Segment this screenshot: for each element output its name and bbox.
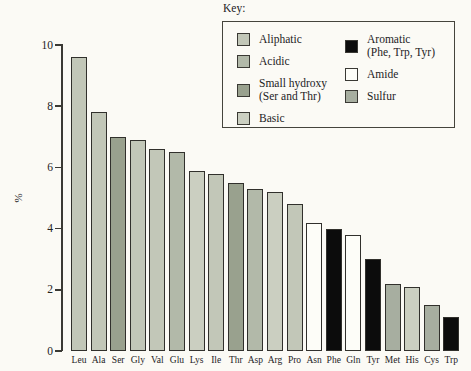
bar-ile (208, 174, 224, 352)
x-tick-label-leu: Leu (71, 355, 87, 366)
legend-label-line2: (Ser and Thr) (259, 90, 327, 103)
legend-label-line1: Basic (259, 112, 285, 125)
x-tick-label-phe: Phe (326, 355, 342, 366)
legend-label-line1: Aliphatic (259, 33, 302, 46)
y-tick-mark (55, 228, 62, 230)
x-tick-label-val: Val (149, 355, 165, 366)
x-tick-label-lys: Lys (189, 355, 205, 366)
x-tick-label-tyr: Tyr (365, 355, 381, 366)
legend-entry-amide: Amide (345, 68, 435, 81)
legend-title: Key: (223, 2, 245, 14)
bar-lys (189, 171, 205, 352)
x-tick-label-gln: Gln (345, 355, 361, 366)
legend-label-line1: Amide (367, 68, 398, 81)
legend-label-amide: Amide (367, 68, 398, 81)
legend-entry-small_hydroxy: Small hydroxy(Ser and Thr) (237, 77, 327, 103)
bar-ser (110, 137, 126, 351)
x-tick-label-asp: Asp (247, 355, 263, 366)
bar-his (404, 287, 420, 351)
bar-gln (345, 235, 361, 351)
x-tick-label-thr: Thr (228, 355, 244, 366)
x-tick-label-pro: Pro (287, 355, 303, 366)
bar-ala (91, 112, 107, 351)
legend-label-line1: Aromatic (367, 33, 435, 46)
bar-asn (306, 223, 322, 352)
bar-thr (228, 183, 244, 351)
x-axis-labels: LeuAlaSerGlyValGluLysIleThrAspArgProAsnP… (63, 355, 467, 366)
y-tick-mark (55, 44, 62, 46)
legend-swatch-sulfur (345, 90, 358, 103)
y-tick-label: 0 (26, 345, 53, 358)
x-tick-label-ala: Ala (91, 355, 107, 366)
bar-phe (326, 229, 342, 351)
bar-pro (287, 204, 303, 351)
y-tick-mark (55, 167, 62, 169)
bar-asp (247, 189, 263, 351)
legend-column-left: AliphaticAcidicSmall hydroxy(Ser and Thr… (237, 33, 327, 125)
y-axis-title: % (12, 193, 24, 202)
legend-swatch-aromatic (345, 40, 358, 53)
legend-entry-sulfur: Sulfur (345, 90, 435, 103)
legend-entry-basic: Basic (237, 112, 327, 125)
x-tick-label-met: Met (385, 355, 401, 366)
x-tick-label-ser: Ser (110, 355, 126, 366)
x-tick-label-arg: Arg (267, 355, 283, 366)
bar-arg (267, 192, 283, 351)
legend-swatch-amide (345, 68, 358, 81)
y-tick-label: 4 (26, 222, 53, 235)
legend-swatch-acidic (237, 55, 250, 68)
legend-label-aromatic: Aromatic(Phe, Trp, Tyr) (367, 33, 435, 59)
legend-label-sulfur: Sulfur (367, 90, 396, 103)
x-tick-label-glu: Glu (169, 355, 185, 366)
legend-label-line2: (Phe, Trp, Tyr) (367, 46, 435, 59)
legend-box: AliphaticAcidicSmall hydroxy(Ser and Thr… (222, 21, 455, 128)
x-tick-label-asn: Asn (306, 355, 322, 366)
y-tick-mark (55, 105, 62, 107)
legend-entry-acidic: Acidic (237, 55, 327, 68)
x-tick-label-ile: Ile (208, 355, 224, 366)
y-tick-mark (55, 350, 62, 352)
bar-glu (169, 152, 185, 351)
legend-entry-aliphatic: Aliphatic (237, 33, 327, 46)
legend-swatch-small_hydroxy (237, 84, 250, 97)
y-tick-label: 2 (26, 283, 53, 296)
legend-label-line1: Small hydroxy (259, 77, 327, 90)
bar-met (385, 284, 401, 351)
y-tick-mark (55, 289, 62, 291)
legend-label-acidic: Acidic (259, 55, 290, 68)
bar-cys (424, 305, 440, 351)
x-tick-label-cys: Cys (424, 355, 440, 366)
legend-label-small_hydroxy: Small hydroxy(Ser and Thr) (259, 77, 327, 103)
x-tick-label-gly: Gly (130, 355, 146, 366)
bar-leu (71, 57, 87, 351)
bar-trp (443, 317, 459, 351)
legend-label-line1: Sulfur (367, 90, 396, 103)
bar-val (149, 149, 165, 351)
y-tick-label: 10 (26, 39, 53, 52)
x-tick-label-his: His (404, 355, 420, 366)
y-tick-label: 6 (26, 161, 53, 174)
legend-label-line1: Acidic (259, 55, 290, 68)
legend-swatch-basic (237, 112, 250, 125)
legend-entry-aromatic: Aromatic(Phe, Trp, Tyr) (345, 33, 435, 59)
legend-label-aliphatic: Aliphatic (259, 33, 302, 46)
legend-label-basic: Basic (259, 112, 285, 125)
legend-column-right: Aromatic(Phe, Trp, Tyr)AmideSulfur (345, 33, 435, 103)
y-tick-label: 8 (26, 100, 53, 113)
x-tick-label-trp: Trp (443, 355, 459, 366)
amino-acid-frequency-bar-chart: % 0246810 LeuAlaSerGlyValGluLysIleThrAsp… (0, 0, 471, 371)
legend-swatch-aliphatic (237, 33, 250, 46)
bar-gly (130, 140, 146, 351)
bar-tyr (365, 259, 381, 351)
